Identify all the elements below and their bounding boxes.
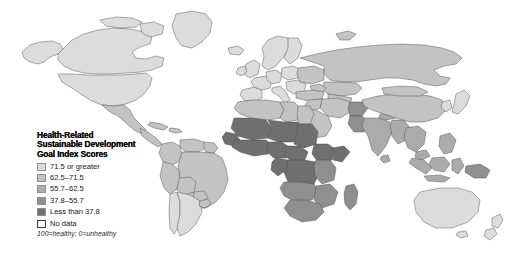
region-java — [424, 175, 450, 182]
region-angola-zambia — [280, 182, 318, 202]
map-legend: Health-Related Sustainable Development G… — [37, 131, 161, 237]
region-mexico — [102, 105, 146, 134]
region-india — [362, 118, 392, 156]
region-new-zealand — [492, 214, 503, 228]
region-novaya-zemlya — [336, 31, 356, 40]
legend-label-0: 71.5 or greater — [50, 163, 100, 171]
region-guyanas — [204, 142, 218, 153]
region-ethiopia — [312, 144, 336, 162]
legend-item-0: 71.5 or greater — [37, 161, 161, 172]
region-venezuela — [180, 139, 206, 152]
map-figure: Health-Related Sustainable Development G… — [0, 0, 509, 256]
region-group-russia-central-asia — [300, 31, 462, 106]
region-alaska — [22, 41, 63, 64]
legend-swatch-1 — [37, 174, 46, 182]
region-iberia — [240, 87, 262, 102]
legend-swatch-2 — [37, 185, 46, 193]
region-russia — [300, 44, 462, 86]
region-tasmania — [456, 231, 468, 238]
region-group-south-america — [159, 139, 228, 236]
region-group-africa — [222, 100, 358, 222]
legend-note: 100=healthy; 0=unhealthy — [37, 230, 161, 237]
region-south-africa — [284, 200, 324, 222]
legend-item-4: Less than 37.8 — [37, 206, 161, 217]
region-group-north-america — [22, 11, 212, 147]
region-sumatra — [409, 158, 432, 174]
region-borneo — [429, 157, 450, 172]
legend-item-2: 55.7–62.5 — [37, 184, 161, 195]
region-japan — [452, 90, 470, 114]
region-morocco-algeria-tunisia — [234, 100, 284, 120]
region-libya — [280, 102, 300, 122]
legend-title: Health-Related Sustainable Development G… — [37, 131, 161, 159]
legend-title-line-3: Goal Index Scores — [37, 150, 161, 159]
region-group-asia — [362, 86, 490, 182]
legend-label-1: 62.5–71.5 — [50, 174, 84, 182]
region-canada-arctic-islands — [100, 17, 142, 28]
region-group-oceania — [414, 188, 503, 240]
region-kenya-uganda-tanzania — [314, 160, 336, 184]
region-iceland — [228, 46, 244, 55]
legend-label-4: Less than 37.8 — [50, 208, 100, 216]
legend-item-1: 62.5–71.5 — [37, 172, 161, 183]
region-colombia — [159, 142, 182, 166]
region-somalia — [332, 146, 350, 162]
region-sri-lanka — [380, 155, 390, 163]
region-sulawesi — [452, 158, 464, 174]
legend-swatch-5 — [37, 220, 46, 228]
region-hispaniola — [169, 128, 182, 133]
region-papua-new-guinea — [465, 164, 490, 178]
region-west-africa-coast — [232, 140, 272, 156]
region-thailand-indochina — [404, 126, 426, 152]
region-philippines — [439, 133, 456, 154]
legend-item-5: No data — [37, 218, 161, 229]
region-new-zealand-south — [484, 228, 497, 240]
region-australia — [414, 188, 480, 228]
legend-item-3: 37.8–55.7 — [37, 195, 161, 206]
legend-swatch-3 — [37, 197, 46, 205]
region-greenland — [172, 11, 212, 48]
region-mongolia — [382, 86, 428, 96]
region-cuba — [148, 122, 168, 130]
region-madagascar — [344, 184, 358, 210]
region-malaysia — [415, 150, 430, 160]
legend-label-2: 55.7–62.5 — [50, 185, 84, 193]
legend-swatch-0 — [37, 163, 46, 171]
region-cameroon-car — [285, 146, 308, 162]
region-british-isles — [244, 60, 260, 78]
region-ukraine-belarus — [297, 66, 324, 84]
region-bolivia — [177, 177, 196, 195]
region-united-states — [58, 73, 152, 106]
legend-label-3: 37.8–55.7 — [50, 197, 84, 205]
legend-swatch-4 — [37, 208, 46, 216]
legend-label-5: No data — [50, 220, 77, 228]
